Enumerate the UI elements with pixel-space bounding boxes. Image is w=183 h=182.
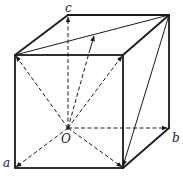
right-face-diagonal xyxy=(123,15,169,166)
edge-top-left-depth xyxy=(15,15,68,55)
dashed-vectors xyxy=(16,17,167,167)
edge-bottom-right-depth xyxy=(123,128,169,168)
vector-front-bottom-right xyxy=(68,128,122,167)
label-origin: O xyxy=(61,132,71,146)
label-b: b xyxy=(172,131,180,145)
label-a: a xyxy=(3,156,10,170)
cube-diagram: c O a b xyxy=(0,0,183,182)
vector-top-diagonal-point xyxy=(89,36,94,53)
origin-point xyxy=(66,126,70,130)
label-c: c xyxy=(65,1,72,15)
vector-front-top-right xyxy=(68,56,122,128)
vector-front-top-left xyxy=(16,56,68,128)
front-face xyxy=(15,55,123,168)
vector-top-diagonal-point-dashed xyxy=(68,53,89,128)
